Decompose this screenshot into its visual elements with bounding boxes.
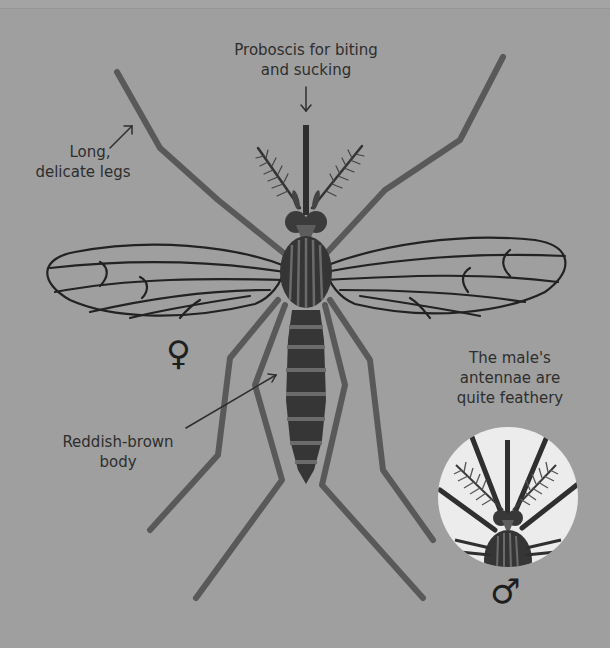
proboscis-label-line2: and sucking [230,60,382,80]
mid-right-leg [330,300,433,540]
body-label-line2: body [58,452,178,472]
hind-right-leg [322,305,423,598]
male-head-inset [438,427,578,590]
body-label-line1: Reddish-brown [58,432,178,452]
left-wing [47,245,285,318]
body-label: Reddish-brown body [58,432,178,472]
male-antennae-label-line2: antennae are [455,368,565,388]
mosquito-illustration [0,0,610,648]
legs-label-line2: delicate legs [28,162,138,182]
proboscis-label: Proboscis for biting and sucking [230,40,382,80]
front-left-leg [117,72,290,258]
male-symbol-icon: ♂ [490,574,520,608]
legs-label: Long, delicate legs [28,142,138,182]
female-symbol-icon: ♀ [166,336,191,370]
right-wing [325,238,565,318]
proboscis [303,125,309,215]
front-right-leg [322,57,503,258]
male-antennae-label-line3: quite feathery [455,388,565,408]
annotation-arrows [110,87,311,428]
thorax [280,236,332,308]
male-antennae-label-line1: The male's [455,348,565,368]
abdomen [286,310,326,484]
proboscis-label-line1: Proboscis for biting [230,40,382,60]
antennae [256,146,364,208]
legs-label-line1: Long, [28,142,138,162]
male-antennae-label: The male's antennae are quite feathery [455,348,565,408]
head [285,211,327,240]
proboscis-arrow [301,87,311,111]
